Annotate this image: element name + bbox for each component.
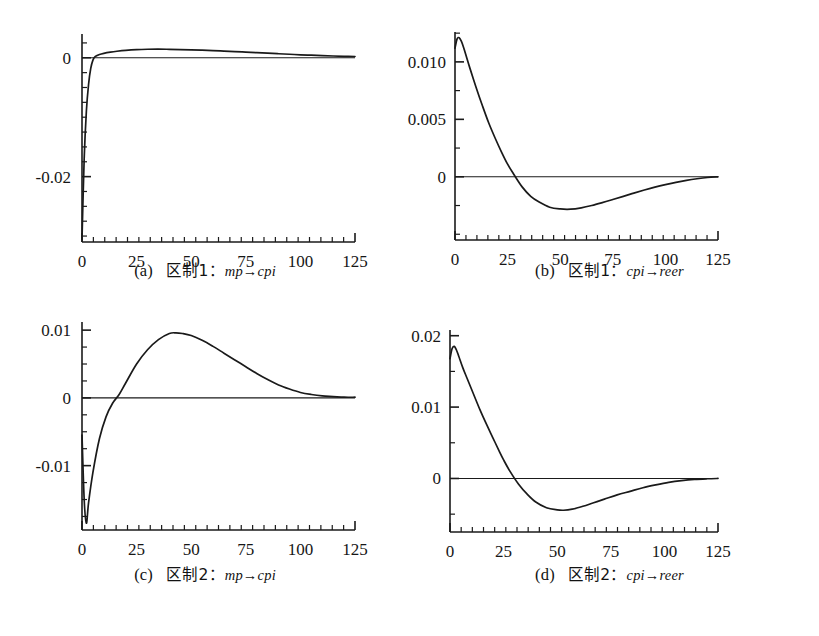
panel-d-caption-index: (d) (535, 565, 555, 584)
irf-curve (82, 49, 355, 239)
x-tick-label: 50 (549, 542, 566, 561)
panel-d: 02550751001250.020.010 (d) 区制2：cpi→reer (400, 300, 819, 620)
panel-b-caption-index: (b) (535, 261, 555, 280)
panel-a-caption: (a) 区制1：mp→cpi (0, 258, 410, 281)
x-tick-label: 75 (602, 542, 619, 561)
panel-a-plot: 02550751001250-0.02 (0, 0, 410, 300)
x-tick-label: 0 (446, 542, 455, 561)
panel-b-plot: 02550751001250.0100.0050 (400, 0, 819, 300)
panel-a-caption-regime: 区制1： (166, 262, 225, 280)
x-tick-label: 125 (705, 542, 731, 561)
panel-b: 02550751001250.0100.0050 (b) 区制1：cpi→ree… (400, 0, 819, 300)
x-tick-label: 50 (183, 540, 200, 559)
y-tick-label: -0.01 (36, 457, 71, 476)
irf-curve (82, 333, 355, 523)
y-tick-label: 0.010 (408, 53, 446, 72)
x-tick-label: 0 (78, 540, 87, 559)
panel-a-caption-index: (a) (134, 261, 153, 280)
x-tick-label: 25 (128, 540, 145, 559)
x-tick-label: 100 (288, 540, 314, 559)
panel-c-caption-index: (c) (134, 565, 153, 584)
y-tick-label: 0 (63, 49, 72, 68)
panel-d-caption-relation: cpi→reer (627, 567, 684, 583)
y-tick-label: 0.01 (41, 321, 71, 340)
panel-b-caption: (b) 区制1：cpi→reer (400, 258, 819, 281)
panel-a: 02550751001250-0.02 (a) 区制1：mp→cpi (0, 0, 410, 300)
x-tick-label: 100 (652, 542, 678, 561)
panel-b-caption-relation: cpi→reer (627, 263, 684, 279)
panel-b-caption-regime: 区制1： (568, 262, 627, 280)
y-tick-label: -0.02 (36, 168, 71, 187)
y-tick-label: 0 (438, 168, 447, 187)
y-tick-label: 0 (433, 469, 442, 488)
panel-d-caption-regime: 区制2： (568, 566, 627, 584)
x-tick-label: 75 (237, 540, 254, 559)
y-tick-label: 0 (63, 389, 72, 408)
x-tick-label: 25 (495, 542, 512, 561)
y-tick-label: 0.02 (411, 327, 441, 346)
panel-c: 02550751001250.010-0.01 (c) 区制2：mp→cpi (0, 300, 410, 620)
panel-c-caption-regime: 区制2： (166, 566, 225, 584)
irf-curve (455, 37, 718, 209)
panel-c-caption-relation: mp→cpi (225, 567, 276, 583)
panel-d-caption: (d) 区制2：cpi→reer (400, 562, 819, 585)
impulse-response-figure: 02550751001250-0.02 (a) 区制1：mp→cpi 02550… (0, 0, 819, 636)
panel-c-caption: (c) 区制2：mp→cpi (0, 562, 410, 585)
y-tick-label: 0.01 (411, 398, 441, 417)
x-tick-label: 125 (342, 540, 368, 559)
panel-a-caption-relation: mp→cpi (225, 263, 276, 279)
irf-curve (450, 346, 718, 510)
y-tick-label: 0.005 (408, 110, 446, 129)
